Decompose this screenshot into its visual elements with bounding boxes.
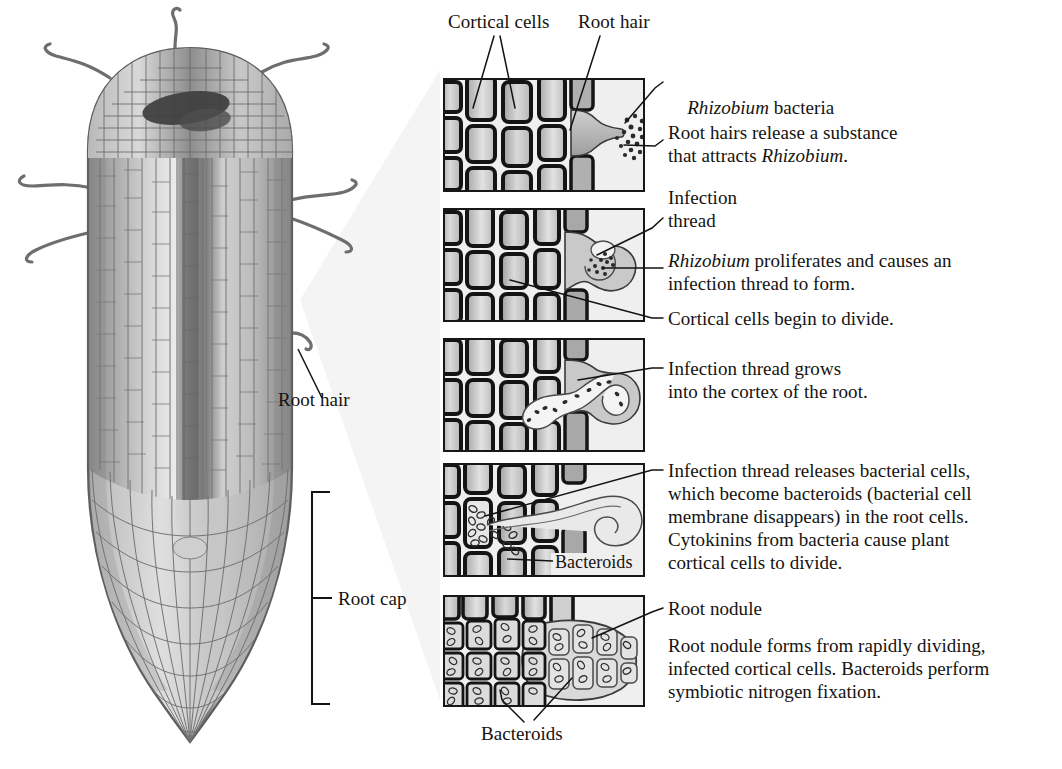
step-5-panel	[443, 595, 645, 707]
root-hair-label: Root hair	[278, 388, 350, 412]
callout-infection-thread-line-1: Infection	[668, 186, 737, 210]
step-3-panel	[443, 338, 645, 452]
root-silhouette	[88, 48, 292, 742]
step-1-panel	[443, 78, 645, 192]
caption-step-2-line-2: infection thread to form.	[668, 272, 855, 296]
caption-step-4-line-5: cortical cells to divide.	[668, 551, 842, 575]
bacteroids-inner-label: Bacteroids	[555, 551, 632, 573]
caption-step-4-line-2: which become bacteroids (bacterial cell	[668, 482, 972, 506]
cortical-cells-label: Cortical cells	[448, 10, 549, 34]
caption-step-1-line-1: Root hairs release a substance	[668, 121, 897, 145]
rhizobium-italic: Rhizobium	[687, 97, 769, 118]
panel-root-hair-label: Root hair	[578, 10, 650, 34]
callout-root-nodule: Root nodule	[668, 597, 762, 621]
figure-canvas: Root hair Root cap Cortical cells Root h…	[0, 0, 1062, 769]
step-5-illustration	[445, 597, 645, 707]
step-3-illustration	[445, 340, 645, 452]
stele	[176, 158, 204, 566]
bacteroids-bottom-label: Bacteroids	[481, 722, 563, 746]
rhizobium-italic-3: Rhizobium	[668, 250, 750, 271]
root-cap-cells	[90, 470, 290, 742]
caption-step-1-line-2: that attracts Rhizobium.	[668, 144, 848, 168]
step-1-illustration	[445, 80, 645, 192]
step-2-illustration	[445, 210, 645, 322]
root-cap-bracket	[312, 492, 332, 704]
step-2-panel	[443, 208, 645, 322]
callout-infection-thread-line-2: thread	[668, 209, 716, 233]
caption-step-2-line-1: Rhizobium proliferates and causes an	[668, 249, 952, 273]
apical-dome	[88, 48, 292, 158]
caption-step-5-line-1: Root nodule forms from rapidly dividing,	[668, 634, 986, 658]
caption-step-3-line-1: Infection thread grows	[668, 357, 841, 381]
caption-step-4-line-3: membrane disappears) in the root cells.	[668, 505, 969, 529]
caption-step-3-line-2: into the cortex of the root.	[668, 380, 868, 404]
root-cell-cross-walls	[96, 170, 286, 470]
caption-step-4-line-1: Infection thread releases bacterial cell…	[668, 459, 970, 483]
caption-step-5-line-2: infected cortical cells. Bacteroids perf…	[668, 657, 989, 681]
rhizobium-rest: bacteria	[769, 97, 834, 118]
step-4-panel: Bacteroids	[443, 463, 645, 577]
rhizobium-italic-2: Rhizobium	[762, 145, 844, 166]
caption-step-2-divide: Cortical cells begin to divide.	[668, 307, 894, 331]
quiescent-center	[140, 86, 232, 130]
caption-step-4-line-4: Cytokinins from bacteria cause plant	[668, 528, 949, 552]
caption-step-5-line-3: symbiotic nitrogen fixation.	[668, 680, 881, 704]
root-cell-files	[100, 158, 282, 542]
root-cap-label: Root cap	[338, 587, 406, 611]
root-hairs	[19, 8, 356, 349]
